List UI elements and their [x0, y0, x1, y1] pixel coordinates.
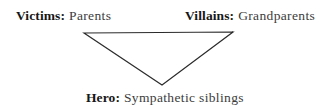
label-hero: Hero:Sympathetic siblings [86, 91, 244, 105]
label-victims-value: Parents [69, 8, 111, 23]
inverted-triangle-shape [84, 32, 233, 85]
label-victims: Victims:Parents [16, 9, 111, 23]
label-hero-role: Hero: [86, 90, 120, 105]
label-villains-role: Villains: [185, 8, 234, 23]
label-victims-role: Victims: [16, 8, 65, 23]
label-hero-value: Sympathetic siblings [124, 90, 244, 105]
diagram-canvas: Victims:Parents Villains:Grandparents He… [0, 0, 336, 108]
label-villains-value: Grandparents [238, 8, 315, 23]
label-villains: Villains:Grandparents [185, 9, 315, 23]
